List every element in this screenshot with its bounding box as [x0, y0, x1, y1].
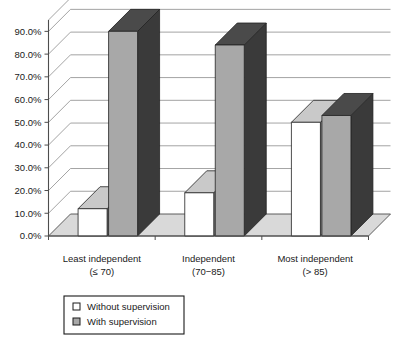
y-axis-tick-label: 60.0% — [15, 94, 42, 105]
grid-depth-edge — [49, 78, 71, 100]
legend-item-label: With supervision — [87, 316, 157, 327]
y-axis-tick-label: 0.0% — [20, 230, 42, 241]
y-axis-tick-label: 80.0% — [15, 49, 42, 60]
bar-least-independent-without-supervision-front — [78, 209, 107, 236]
grid-depth-edge — [49, 123, 71, 145]
grid-depth-edge — [49, 100, 71, 122]
bar-least-independent-with-supervision-front — [109, 31, 138, 236]
gray-square-icon — [73, 318, 80, 325]
y-axis-tick-label: 30.0% — [15, 162, 42, 173]
x-axis-category-sublabel: (≤ 70) — [89, 266, 114, 277]
x-axis-category-label: Most independent — [277, 253, 353, 264]
grid-depth-edge — [49, 32, 71, 54]
bar-most-independent-with-supervision-front — [322, 115, 351, 236]
white-square-icon — [73, 303, 80, 310]
grid-depth-edge — [49, 169, 71, 191]
y-axis-tick-label: 20.0% — [15, 185, 42, 196]
x-axis-category-label: Least independent — [63, 253, 142, 264]
bar-chart-3d: 0.0%10.0%20.0%30.0%40.0%50.0%60.0%70.0%8… — [0, 0, 414, 349]
bar-most-independent-without-supervision-front — [291, 122, 320, 236]
y-axis-tick-label: 50.0% — [15, 117, 42, 128]
bar-independent-with-supervision-front — [215, 45, 244, 236]
x-axis-category-label: Independent — [182, 253, 235, 264]
bar-independent-with-supervision-side — [244, 23, 266, 236]
x-axis-category-sublabel: (> 85) — [303, 266, 328, 277]
y-axis-tick-label: 10.0% — [15, 208, 42, 219]
y-axis-tick-label: 90.0% — [15, 26, 42, 37]
grid-depth-edge — [49, 55, 71, 77]
grid-depth-edge — [49, 9, 71, 31]
x-axis-category-sublabel: (70−85) — [192, 266, 225, 277]
y-axis-tick-label: 40.0% — [15, 139, 42, 150]
legend-item-label: Without supervision — [87, 301, 170, 312]
bar-most-independent-with-supervision-side — [351, 93, 373, 236]
grid-depth-edge-top — [49, 0, 71, 20]
bar-independent-without-supervision-front — [185, 193, 214, 236]
y-axis-tick-label: 70.0% — [15, 71, 42, 82]
grid-depth-edge — [49, 191, 71, 213]
bar-least-independent-with-supervision-side — [138, 9, 160, 236]
chart-container: 0.0%10.0%20.0%30.0%40.0%50.0%60.0%70.0%8… — [0, 0, 414, 349]
grid-depth-edge — [49, 146, 71, 168]
